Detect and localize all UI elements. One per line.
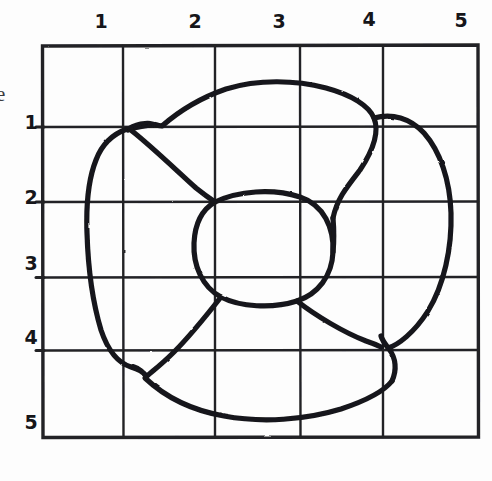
y-axis-label-5: 5 bbox=[18, 413, 44, 432]
grid-line-horizontal-2 bbox=[43, 202, 479, 203]
grid-lines bbox=[43, 45, 479, 438]
curve-bottom-petal-inner-right bbox=[297, 301, 381, 347]
y-axis-label-2: 2 bbox=[18, 188, 44, 207]
curve-top-petal-inner-left bbox=[132, 131, 215, 202]
curve-bottom-petal bbox=[145, 378, 392, 420]
x-axis-label-4: 4 bbox=[356, 10, 382, 29]
grid-line-vertical-1 bbox=[123, 46, 124, 437]
rosette-figure bbox=[0, 0, 492, 481]
y-axis-label-1: 1 bbox=[18, 113, 44, 132]
ink-cusp-marks bbox=[129, 123, 160, 378]
x-axis-label-2: 2 bbox=[182, 12, 208, 31]
x-axis-label-1: 1 bbox=[88, 12, 114, 31]
x-axis-label-3: 3 bbox=[266, 12, 292, 31]
curve-right-petal-inner-upper bbox=[333, 218, 334, 252]
plot-frame bbox=[43, 45, 479, 438]
curve-left-petal bbox=[87, 129, 146, 376]
figure-canvas: 1 2 3 4 5 1 2 3 4 5 e bbox=[0, 0, 492, 481]
y-axis-label-3: 3 bbox=[18, 254, 44, 273]
curve-top-petal bbox=[128, 82, 376, 218]
grid-line-vertical-3 bbox=[300, 46, 301, 438]
grid-line-horizontal-3 bbox=[43, 277, 479, 278]
y-axis-label-4: 4 bbox=[18, 328, 44, 347]
curve-left-petal-inner-lower bbox=[146, 297, 221, 377]
x-axis-label-5: 5 bbox=[448, 11, 474, 30]
curve-right-petal bbox=[374, 116, 451, 348]
margin-text-fragment: e bbox=[0, 84, 5, 105]
